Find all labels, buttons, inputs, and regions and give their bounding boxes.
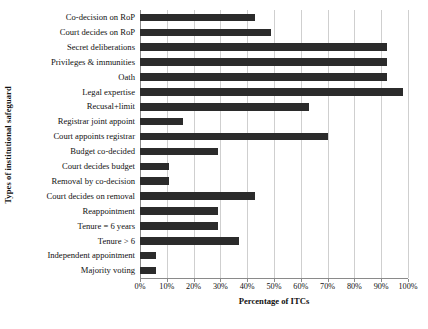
- category-label: Independent appointment: [16, 251, 140, 260]
- bar-cell: [140, 218, 420, 233]
- bar-cell: [140, 40, 420, 55]
- bar-row: Budget co-decided: [16, 144, 420, 159]
- category-label: Oath: [16, 73, 140, 82]
- category-label: Court decides budget: [16, 162, 140, 171]
- bar: [140, 88, 403, 96]
- bar-cell: [140, 25, 420, 40]
- bar: [140, 14, 255, 22]
- category-label: Reappointment: [16, 207, 140, 216]
- bar: [140, 118, 183, 126]
- category-label: Court decides on removal: [16, 192, 140, 201]
- bar-cell: [140, 204, 420, 219]
- bar-row: Oath: [16, 70, 420, 85]
- bar-row: Tenure > 6: [16, 233, 420, 248]
- bar-row: Tenure = 6 years: [16, 218, 420, 233]
- bar-cell: [140, 10, 420, 25]
- bar-cell: [140, 99, 420, 114]
- bar: [140, 207, 218, 215]
- bar-cell: [140, 70, 420, 85]
- y-axis-title: Types of institutional safeguard: [0, 0, 16, 290]
- bar-cell: [140, 233, 420, 248]
- category-label: Co-decision on RoP: [16, 13, 140, 22]
- x-axis-title: Percentage of ITCs: [140, 296, 408, 306]
- horizontal-bar-chart: Types of institutional safeguard Co-deci…: [0, 0, 428, 329]
- bar: [140, 237, 239, 245]
- category-label: Court appoints registrar: [16, 132, 140, 141]
- y-axis-title-text: Types of institutional safeguard: [3, 86, 13, 204]
- x-axis-ticks: 0%10%20%30%40%50%60%70%80%90%100%: [140, 279, 408, 293]
- x-tick-label: 80%: [347, 282, 362, 291]
- bar-cell: [140, 263, 420, 278]
- bar-row: Registrar joint appoint: [16, 114, 420, 129]
- bar: [140, 163, 169, 171]
- category-label: Tenure = 6 years: [16, 222, 140, 231]
- bar-row: Removal by co-decision: [16, 174, 420, 189]
- bar-row: Reappointment: [16, 204, 420, 219]
- bar: [140, 177, 169, 185]
- bar-cell: [140, 189, 420, 204]
- category-label: Majority voting: [16, 266, 140, 275]
- bar-row: Court appoints registrar: [16, 129, 420, 144]
- bar-cell: [140, 174, 420, 189]
- bar-row: Independent appointment: [16, 248, 420, 263]
- x-tick-label: 20%: [186, 282, 201, 291]
- bar-cell: [140, 129, 420, 144]
- bar-cell: [140, 144, 420, 159]
- bar: [140, 58, 387, 66]
- bar: [140, 29, 271, 37]
- bar: [140, 148, 218, 156]
- x-tick-label: 40%: [240, 282, 255, 291]
- category-label: Legal expertise: [16, 88, 140, 97]
- bar: [140, 103, 309, 111]
- x-tick-label: 10%: [159, 282, 174, 291]
- x-tick-label: 0%: [135, 282, 146, 291]
- x-tick-label: 30%: [213, 282, 228, 291]
- bar-row: Privileges & immunities: [16, 55, 420, 70]
- bar-cell: [140, 114, 420, 129]
- category-label: Secret deliberations: [16, 43, 140, 52]
- bar-row: Co-decision on RoP: [16, 10, 420, 25]
- category-label: Registrar joint appoint: [16, 117, 140, 126]
- category-label: Tenure > 6: [16, 237, 140, 246]
- bar-cell: [140, 248, 420, 263]
- bar-row: Court decides on removal: [16, 189, 420, 204]
- bar-cell: [140, 159, 420, 174]
- bar-row: Court decides on RoP: [16, 25, 420, 40]
- category-label: Privileges & immunities: [16, 58, 140, 67]
- plot-area: Co-decision on RoPCourt decides on RoPSe…: [16, 10, 420, 280]
- bar-row: Secret deliberations: [16, 40, 420, 55]
- x-tick-label: 100%: [398, 282, 417, 291]
- x-tick-label: 50%: [266, 282, 281, 291]
- bar: [140, 222, 218, 230]
- bar: [140, 192, 255, 200]
- bar: [140, 133, 328, 141]
- category-label: Court decides on RoP: [16, 28, 140, 37]
- x-tick-label: 60%: [293, 282, 308, 291]
- x-tick-label: 70%: [320, 282, 335, 291]
- bar-row: Recusal+limit: [16, 99, 420, 114]
- bar-row: Legal expertise: [16, 84, 420, 99]
- category-label: Budget co-decided: [16, 147, 140, 156]
- bar-row: Majority voting: [16, 263, 420, 278]
- bar-cell: [140, 55, 420, 70]
- x-tick-label: 90%: [374, 282, 389, 291]
- bar-cell: [140, 84, 420, 99]
- bar-row: Court decides budget: [16, 159, 420, 174]
- category-label: Removal by co-decision: [16, 177, 140, 186]
- bar: [140, 267, 156, 275]
- category-label: Recusal+limit: [16, 102, 140, 111]
- bar: [140, 73, 387, 81]
- bar: [140, 43, 387, 51]
- bar: [140, 252, 156, 260]
